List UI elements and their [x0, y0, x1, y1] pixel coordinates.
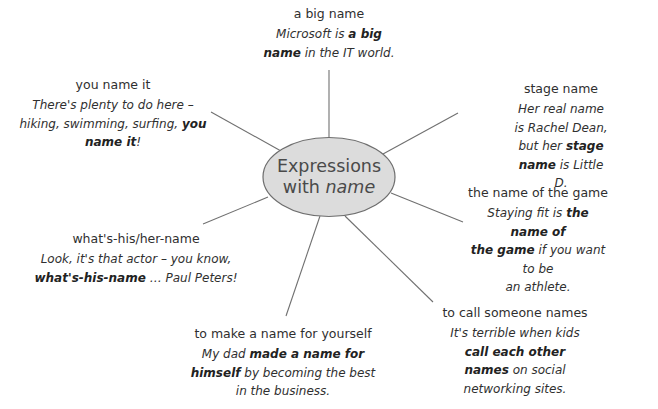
example-text: but her	[518, 139, 565, 153]
node-heading: a big name	[264, 5, 395, 23]
example-text: … Paul Peters!	[146, 271, 238, 285]
example-text: Microsoft is	[276, 27, 348, 41]
connector-you-name-it	[211, 112, 281, 151]
node-example: My dad made a name forhimself by becomin…	[191, 345, 376, 401]
example-text: Staying fit is	[487, 206, 566, 220]
key-phrase: a big	[348, 27, 382, 41]
example-text: hiking, swimming, surfing,	[19, 117, 181, 131]
example-text: by becoming the best	[240, 366, 375, 380]
example-text: an athlete.	[505, 280, 570, 294]
node-heading: what's-his/her-name	[34, 230, 237, 248]
center-title-line1: Expressions	[277, 156, 381, 177]
node-heading: the name of the game	[468, 184, 608, 202]
node-heading: to make a name for yourself	[191, 325, 376, 343]
center-title-prefix: with	[283, 177, 326, 197]
mind-map: Expressions with name a big name Microso…	[0, 0, 658, 409]
node-to-call-someone-names: to call someone names It's terrible when…	[442, 304, 587, 398]
key-phrase: name it	[85, 135, 136, 149]
example-text: Her real name is Rachel Dean,	[514, 102, 607, 135]
connector-the-name-of-the-game	[391, 193, 463, 222]
key-phrase: name	[264, 46, 301, 60]
key-phrase: made a name for	[250, 347, 365, 361]
center-title: Expressions with name	[277, 156, 381, 198]
node-example: There's plenty to do here –hiking, swimm…	[19, 96, 206, 152]
node-heading: you name it	[19, 76, 206, 94]
example-text: It's terrible when kids	[450, 326, 579, 340]
connector-to-call-someone-names	[345, 216, 433, 302]
center-title-line2: with name	[277, 177, 381, 198]
node-example: Her real name is Rachel Dean,but her sta…	[513, 100, 610, 193]
node-whats-his-her-name: what's-his/her-name Look, it's that acto…	[34, 230, 237, 287]
example-text: Look, it's that actor – you know,	[41, 252, 232, 266]
key-phrase: himself	[191, 366, 241, 380]
center-title-italic: name	[326, 177, 376, 197]
node-example: Staying fit is the name ofthe game if yo…	[468, 204, 608, 297]
node-a-big-name: a big name Microsoft is a bigname in the…	[264, 5, 395, 62]
key-phrase: what's-his-name	[34, 271, 145, 285]
node-to-make-a-name-for-yourself: to make a name for yourself My dad made …	[191, 325, 376, 401]
example-text: if you want to be	[523, 243, 606, 276]
connector-whats-his-her-name	[203, 197, 268, 224]
connector-stage-name	[383, 113, 458, 154]
key-phrase: call each other	[465, 345, 565, 359]
key-phrase: names	[464, 363, 508, 377]
node-heading: to call someone names	[442, 304, 587, 322]
key-phrase: the game	[471, 243, 535, 257]
node-the-name-of-the-game: the name of the game Staying fit is the …	[468, 184, 608, 297]
example-text: in the IT world.	[301, 46, 395, 60]
node-heading: stage name	[513, 80, 610, 98]
connector-to-make-a-name	[286, 216, 320, 316]
example-text: in the business.	[236, 384, 330, 398]
node-example: Look, it's that actor – you know,what's-…	[34, 250, 237, 287]
node-example: It's terrible when kids call each othern…	[442, 324, 587, 398]
node-example: Microsoft is a bigname in the IT world.	[264, 25, 395, 62]
example-text: There's plenty to do here –	[32, 98, 193, 112]
node-you-name-it: you name it There's plenty to do here –h…	[19, 76, 206, 152]
key-phrase: you	[182, 117, 207, 131]
node-stage-name: stage name Her real name is Rachel Dean,…	[513, 80, 610, 193]
example-text: My dad	[202, 347, 250, 361]
example-text: !	[136, 135, 141, 149]
